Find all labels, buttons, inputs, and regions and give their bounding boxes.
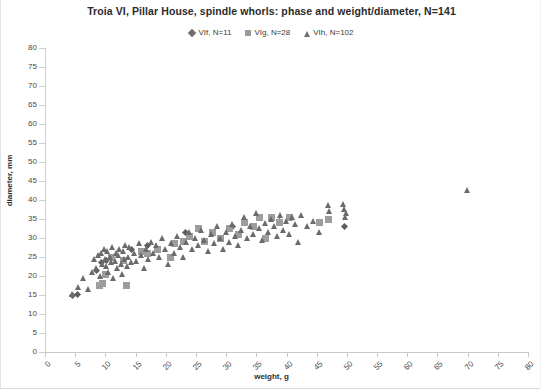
x-tick <box>528 352 529 357</box>
data-point-vih <box>304 223 310 229</box>
data-point-vig <box>325 216 332 223</box>
y-tick-label: 50 <box>13 158 37 166</box>
data-point-vih <box>238 227 244 233</box>
data-point-vih <box>256 225 262 231</box>
data-point-vih <box>274 233 280 239</box>
data-point-vih <box>159 235 165 241</box>
data-point-vih <box>259 237 265 243</box>
data-point-vih <box>192 235 198 241</box>
data-point-vih <box>292 221 298 227</box>
legend-item-vif[interactable]: VIf, N=11 <box>189 28 231 37</box>
y-tick-label: 55 <box>13 139 37 147</box>
data-point-vih <box>97 273 103 279</box>
data-point-vih <box>195 242 201 248</box>
y-tick-label: 30 <box>13 234 37 242</box>
x-tick <box>226 352 227 357</box>
data-point-vih <box>156 254 162 260</box>
data-point-vih <box>180 254 186 260</box>
data-point-vif <box>341 223 348 230</box>
data-point-vih <box>208 231 214 237</box>
chart-title: Troia VI, Pillar House, spindle whorls: … <box>1 5 541 17</box>
data-point-vih <box>464 187 470 193</box>
data-point-vih <box>289 214 295 220</box>
data-point-vih <box>235 242 241 248</box>
data-point-vih <box>171 250 177 256</box>
data-point-vih <box>198 227 204 233</box>
x-tick <box>196 352 197 357</box>
data-point-vih <box>250 231 256 237</box>
data-point-vih <box>162 246 168 252</box>
y-tick-label: 45 <box>13 177 37 185</box>
x-tick <box>498 352 499 357</box>
data-point-vih <box>316 229 322 235</box>
data-point-vih <box>153 242 159 248</box>
data-point-vih <box>253 210 259 216</box>
x-tick <box>45 352 46 357</box>
data-point-vih <box>143 246 149 252</box>
data-point-vih <box>298 212 304 218</box>
x-tick <box>166 352 167 357</box>
square-marker-icon <box>245 30 251 36</box>
x-tick <box>105 352 106 357</box>
data-point-vih <box>268 216 274 222</box>
legend-item-vig[interactable]: VIg, N=28 <box>245 28 290 37</box>
chart-container: Troia VI, Pillar House, spindle whorls: … <box>0 0 541 389</box>
data-point-vih <box>286 231 292 237</box>
data-point-vih <box>295 239 301 245</box>
chart-legend: VIf, N=11 VIg, N=28 VIh, N=102 <box>1 28 541 37</box>
x-tick <box>437 352 438 357</box>
data-point-vig <box>316 219 323 226</box>
data-point-vih <box>138 252 144 258</box>
data-point-vih <box>343 210 349 216</box>
legend-item-vih[interactable]: VIh, N=102 <box>304 28 353 37</box>
y-tick-label: 40 <box>13 196 37 204</box>
data-point-vih <box>119 271 125 277</box>
legend-label-vih: VIh, N=102 <box>313 28 353 37</box>
data-point-vig <box>99 280 106 287</box>
data-point-vih <box>165 261 171 267</box>
diamond-marker-icon <box>188 29 196 37</box>
triangle-marker-icon <box>304 31 310 37</box>
x-tick <box>317 352 318 357</box>
data-point-vih <box>131 250 137 256</box>
data-point-vih <box>110 275 116 281</box>
y-tick-label: 65 <box>13 101 37 109</box>
x-tick <box>468 352 469 357</box>
data-point-vig <box>123 282 130 289</box>
x-tick <box>136 352 137 357</box>
y-tick-label: 5 <box>13 329 37 337</box>
data-point-vih <box>232 233 238 239</box>
data-point-vih <box>226 239 232 245</box>
data-point-vih <box>326 208 332 214</box>
data-point-vif <box>74 291 81 298</box>
y-tick-label: 70 <box>13 82 37 90</box>
data-point-vih <box>310 218 316 224</box>
data-point-vih <box>177 244 183 250</box>
x-tick <box>256 352 257 357</box>
y-tick-label: 75 <box>13 63 37 71</box>
y-tick-label: 20 <box>13 272 37 280</box>
x-axis-title: weight, g <box>1 372 541 381</box>
data-point-vih <box>174 233 180 239</box>
data-point-vih <box>85 286 91 292</box>
y-tick-label: 25 <box>13 253 37 261</box>
x-tick <box>287 352 288 357</box>
data-point-vih <box>69 291 75 297</box>
data-point-vih <box>247 223 253 229</box>
data-point-vih <box>265 229 271 235</box>
y-tick-label: 35 <box>13 215 37 223</box>
data-point-vih <box>201 237 207 243</box>
data-point-vih <box>214 223 220 229</box>
x-tick <box>75 352 76 357</box>
data-point-vih <box>145 256 151 262</box>
data-point-vih <box>205 248 211 254</box>
x-tick <box>407 352 408 357</box>
data-point-vih <box>168 240 174 246</box>
data-point-vih <box>271 223 277 229</box>
y-tick-label: 80 <box>13 44 37 52</box>
y-tick-label: 0 <box>13 348 37 356</box>
y-tick-label: 60 <box>13 120 37 128</box>
data-point-vih <box>211 240 217 246</box>
data-point-vih <box>183 239 189 245</box>
y-tick-label: 10 <box>13 310 37 318</box>
